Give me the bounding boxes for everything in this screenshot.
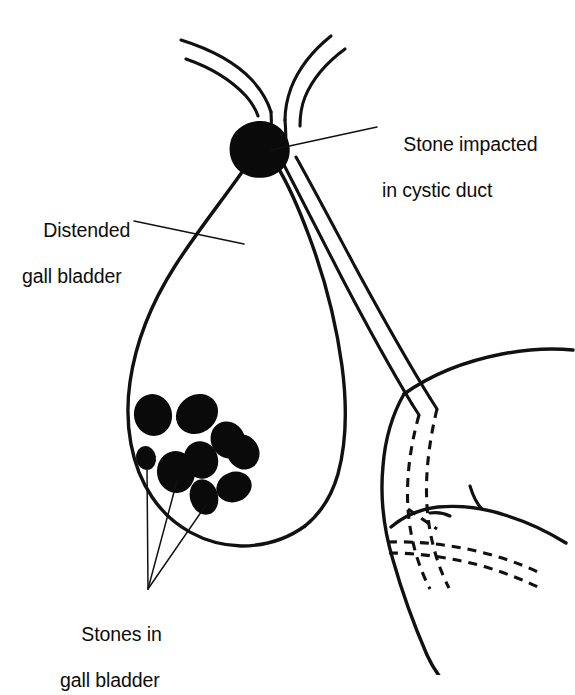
duodenal-fold-mark-upper: [470, 486, 482, 509]
label-stones-in-line1: Stones in: [81, 623, 161, 645]
leader-line-stones-3: [148, 505, 206, 589]
left-hepatic-duct-inner-line: [186, 59, 258, 116]
leader-line-stones-1: [147, 467, 148, 589]
duodenal-papilla-marking: [391, 506, 566, 543]
leader-line-distended-gall-bladder: [134, 221, 244, 244]
label-distended-line2: gall bladder: [22, 265, 130, 288]
common-bile-duct-hidden-right-line: [426, 409, 449, 588]
label-stone-impacted-line1: Stone impacted: [403, 133, 537, 155]
label-stone-impacted-line2: in cystic duct: [382, 179, 537, 202]
label-stone-impacted-in-cystic-duct: Stone impacted in cystic duct: [382, 110, 537, 248]
stone-impacted-shape: [230, 121, 290, 178]
common-bile-duct-left-line: [412, 404, 419, 415]
label-distended-gall-bladder: Distended gall bladder: [22, 196, 130, 334]
label-distended-line1: Distended: [43, 219, 130, 241]
label-stones-in-gall-bladder: Stones in gall bladder: [60, 600, 162, 695]
right-hepatic-duct-outer-line: [285, 36, 331, 120]
common-bile-duct-right-line: [430, 398, 437, 409]
left-hepatic-duct-outer-line: [181, 40, 271, 112]
common-bile-duct-hidden-left-line: [407, 415, 430, 589]
label-stones-in-line2: gall bladder: [60, 669, 162, 692]
gall-bladder-stone: [130, 391, 176, 440]
pancreatic-duct-lower-line: [389, 553, 540, 588]
gall-bladder-stone: [212, 467, 256, 508]
pancreatic-duct-upper-line: [388, 542, 542, 574]
duodenal-fold-mark-lower: [430, 513, 450, 516]
duodenum-superior-border: [404, 349, 573, 394]
